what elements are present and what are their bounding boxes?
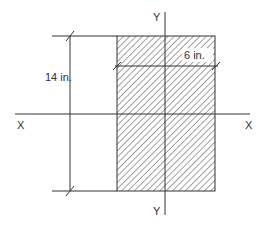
section-diagram: X X Y Y 14 in. 6 in. [0, 0, 265, 225]
x-axis-label-right: X [245, 119, 253, 131]
height-dimension-label: 14 in. [45, 71, 72, 83]
y-axis-label-bottom: Y [153, 205, 161, 217]
y-axis-label-top: Y [153, 11, 161, 23]
width-dimension-label: 6 in. [184, 49, 205, 61]
x-axis-label-left: X [17, 119, 25, 131]
